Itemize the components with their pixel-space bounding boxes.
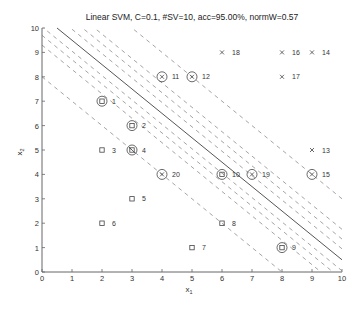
point-label: 1	[112, 98, 116, 105]
point-label: 3	[112, 147, 116, 154]
data-point: 3	[100, 147, 116, 154]
y-tick-label: 1	[35, 244, 39, 253]
point-label: 18	[232, 49, 240, 56]
y-tick-label: 10	[31, 24, 39, 33]
x-tick-label: 10	[338, 274, 346, 283]
x-axis-label: x1	[185, 285, 192, 295]
x-tick-label: 3	[130, 274, 134, 283]
point-label: 8	[232, 220, 236, 227]
x-tick-label: 6	[220, 274, 224, 283]
svg-text:x2: x2	[15, 148, 25, 155]
data-point: 18	[220, 49, 240, 56]
point-label: 19	[262, 171, 270, 178]
data-point: 13	[310, 147, 330, 154]
support-vector-ring	[97, 96, 107, 106]
x-tick-label: 5	[190, 274, 194, 283]
y-tick-label: 8	[35, 73, 39, 82]
point-label: 7	[202, 244, 206, 251]
x-tick-label: 8	[280, 274, 284, 283]
y-tick-label: 3	[35, 195, 39, 204]
chart-title: Linear SVM, C=0.1, #SV=10, acc=95.00%, n…	[86, 12, 299, 22]
data-point: 12	[187, 72, 210, 82]
data-point: 5	[130, 195, 146, 202]
data-point: 14	[310, 49, 330, 56]
x-tick-label: 4	[160, 274, 164, 283]
margin-line	[42, 35, 333, 272]
margin-line	[44, 28, 343, 271]
svg-text:x1: x1	[185, 285, 192, 295]
point-label: 4	[142, 147, 146, 154]
x-tick-label: 1	[70, 274, 74, 283]
x-tick-label: 9	[310, 274, 314, 283]
data-point: 16	[280, 49, 300, 56]
point-label: 15	[322, 171, 330, 178]
point-label: 12	[202, 73, 210, 80]
margin-line	[83, 28, 343, 239]
point-label: 5	[142, 195, 146, 202]
svm-chart: Linear SVM, C=0.1, #SV=10, acc=95.00%, n…	[0, 0, 363, 309]
data-point: 15	[307, 169, 330, 179]
point-label: 10	[232, 171, 240, 178]
y-tick-label: 0	[35, 268, 39, 277]
y-tick-label: 4	[35, 170, 39, 179]
y-axis-label: x2	[15, 148, 25, 155]
margin-line	[95, 28, 343, 229]
point-label: 13	[322, 147, 330, 154]
support-vector-ring	[217, 169, 227, 179]
x-tick-label: 0	[40, 274, 44, 283]
point-label: 17	[292, 73, 300, 80]
data-point: 6	[100, 220, 116, 227]
support-vector-ring	[127, 121, 137, 131]
y-tick-label: 9	[35, 48, 39, 57]
point-label: 9	[292, 244, 296, 251]
y-tick-label: 5	[35, 146, 39, 155]
y-tick-label: 7	[35, 97, 39, 106]
point-label: 6	[112, 220, 116, 227]
data-point: 11	[157, 72, 179, 82]
margin-line	[71, 28, 343, 249]
data-point: 17	[280, 73, 300, 80]
data-point: 7	[190, 244, 206, 251]
point-label: 16	[292, 49, 300, 56]
x-tick-label: 7	[250, 274, 254, 283]
point-label: 20	[172, 171, 180, 178]
margin-line	[42, 45, 321, 272]
point-label: 2	[142, 122, 146, 129]
y-tick-label: 6	[35, 122, 39, 131]
y-tick-label: 2	[35, 219, 39, 228]
point-label: 14	[322, 49, 330, 56]
x-tick-label: 2	[100, 274, 104, 283]
margin-lines	[42, 28, 342, 272]
data-point: 20	[157, 169, 180, 179]
support-vector-ring	[277, 243, 287, 253]
point-label: 11	[172, 73, 179, 80]
